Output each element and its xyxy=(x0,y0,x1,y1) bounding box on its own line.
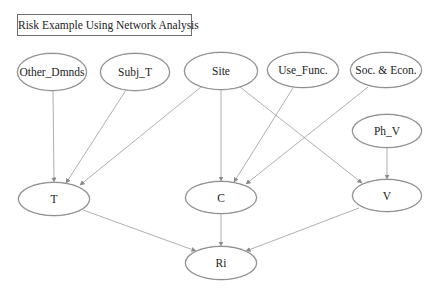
node-t: T xyxy=(18,182,90,216)
edge-soc-econ-to-c xyxy=(246,87,368,184)
node-label: C xyxy=(217,192,225,204)
node-label: Soc. & Econ. xyxy=(355,64,416,76)
edge-site-to-t xyxy=(80,87,201,185)
node-label: Ph_V xyxy=(374,125,400,137)
node-other-dmnds: Other_Dmnds xyxy=(17,53,87,91)
edge-subj-t-to-t xyxy=(66,90,126,183)
node-c: C xyxy=(185,181,257,214)
node-subj-t: Subj_T xyxy=(100,53,170,91)
node-label: Subj_T xyxy=(118,66,152,78)
node-label: Ri xyxy=(216,257,227,269)
node-label: Other_Dmnds xyxy=(19,66,84,78)
edge-v-to-ri xyxy=(246,208,359,251)
diagram-title: Risk Example Using Network Analysis xyxy=(17,14,192,36)
node-label: Use_Func. xyxy=(278,64,328,76)
node-label: Site xyxy=(212,65,230,77)
node-label: V xyxy=(383,190,391,202)
node-label: T xyxy=(50,193,57,205)
node-ri: Ri xyxy=(185,246,257,280)
network-diagram: Risk Example Using Network Analysis Othe… xyxy=(0,0,439,296)
node-ph-v: Ph_V xyxy=(352,114,422,148)
edge-site-to-v xyxy=(240,87,362,183)
edge-t-to-ri xyxy=(83,210,196,251)
node-site: Site xyxy=(184,52,258,90)
edge-use-func-to-c xyxy=(234,88,293,182)
node-v: V xyxy=(352,179,422,212)
node-soc-econ: Soc. & Econ. xyxy=(350,52,422,88)
edge-other-dmnds-to-t xyxy=(53,91,54,182)
node-use-func: Use_Func. xyxy=(267,52,339,88)
